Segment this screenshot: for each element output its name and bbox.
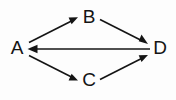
node-label-d: D bbox=[150, 38, 170, 57]
edge-a-to-c-arrowhead bbox=[69, 74, 78, 81]
node-label-c: C bbox=[79, 70, 99, 89]
node-label-a: A bbox=[7, 38, 27, 57]
diagram-canvas: A B C D bbox=[0, 0, 176, 100]
edge-c-to-d bbox=[100, 55, 148, 80]
edge-a-to-c-line bbox=[29, 56, 73, 78]
edge-c-to-d-arrowhead bbox=[139, 55, 148, 62]
edge-a-to-c bbox=[29, 56, 78, 81]
edge-a-to-b-line bbox=[29, 21, 73, 43]
node-label-b: B bbox=[79, 7, 99, 26]
edge-d-to-a bbox=[28, 45, 151, 53]
edge-b-to-d-line bbox=[100, 20, 143, 42]
edge-a-to-b bbox=[29, 17, 78, 42]
edge-a-to-b-arrowhead bbox=[69, 17, 78, 24]
edge-b-to-d-arrowhead bbox=[139, 35, 148, 44]
edge-d-to-a-arrowhead bbox=[28, 45, 38, 53]
edge-b-to-d bbox=[100, 20, 148, 45]
edge-c-to-d-line bbox=[100, 58, 143, 80]
